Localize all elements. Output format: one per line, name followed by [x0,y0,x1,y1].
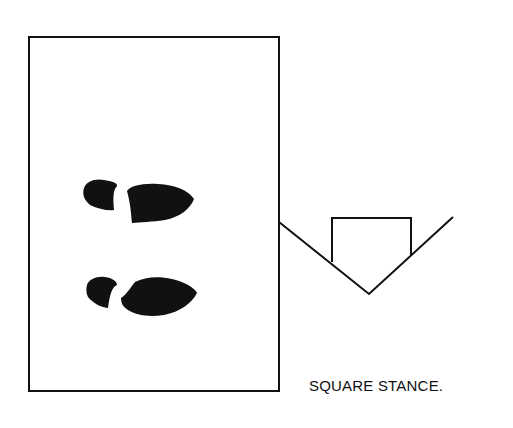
back-foot-print [86,277,197,316]
home-plate-outline [332,218,411,262]
square-stance-diagram [0,0,513,428]
back-foot-sole-icon [121,277,197,316]
foul-lines [279,217,453,294]
front-foot-sole-icon [127,184,194,223]
front-foot-heel-icon [83,179,117,210]
front-foot-print [83,179,194,223]
home-plate [279,217,453,294]
back-foot-heel-icon [86,277,117,308]
diagram-caption: SQUARE STANCE. [309,377,443,394]
